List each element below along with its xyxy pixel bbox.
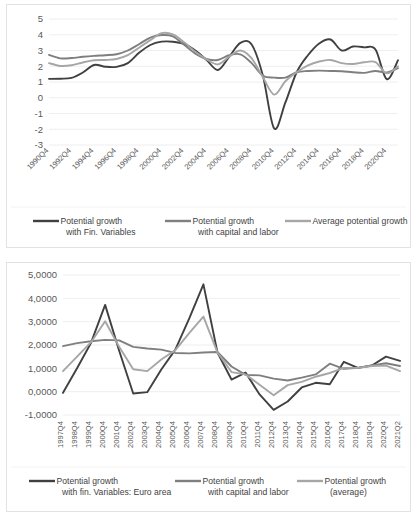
x-axis-tick-label: 2016Q4 (318, 146, 343, 171)
x-axis-tick-label: 2010Q4 (250, 146, 275, 171)
x-axis-tick-label: 2008Q4 (228, 146, 253, 171)
x-axis-tick-label: 2007Q4 (196, 421, 205, 448)
legend-label: Potential growth (325, 476, 387, 486)
x-axis-tick-label: 2004Q4 (154, 421, 163, 448)
legend-label: Potential growth (203, 476, 265, 486)
x-axis-tick-label: 1998Q4 (115, 146, 140, 171)
legend-label: Potential growth (57, 476, 119, 486)
x-axis-tick-label: 1998Q4 (70, 421, 79, 448)
y-axis-tick-label: 1 (38, 76, 43, 87)
x-axis-tick-label: 2004Q4 (183, 146, 208, 171)
x-axis-tick-label: 2011Q4 (253, 421, 262, 447)
legend-label: Average potential growth (313, 216, 408, 226)
x-axis-tick-label: 2008Q4 (210, 421, 219, 448)
x-axis-tick-label: 2003Q4 (140, 421, 149, 448)
x-axis-tick-label: 2012Q4 (267, 421, 276, 448)
series-line (63, 284, 400, 410)
y-axis-tick-label: 0,0000 (28, 386, 57, 397)
y-axis-tick-label: 3 (38, 45, 43, 56)
y-axis-tick-label: -1 (35, 108, 43, 119)
x-axis-tick-label: 2000Q4 (98, 421, 107, 448)
x-axis-tick-label: 2019Q4 (365, 421, 374, 448)
x-axis-tick-label: 2016Q4 (323, 421, 332, 448)
x-axis-tick-label: 1994Q4 (70, 146, 95, 171)
legend-label: Potential growth (61, 216, 123, 226)
legend-label-line2: with capital and labor (197, 227, 279, 237)
y-axis-tick-label: 5 (38, 13, 43, 24)
x-axis-tick-label: 2006Q4 (205, 146, 230, 171)
legend-label-line2: with Fin. Variables (65, 227, 136, 237)
chart-bottom-canvas: 5,00004,00003,00002,00001,00000,0000-1,0… (7, 263, 410, 511)
x-axis-tick-label: 2014Q4 (295, 421, 304, 448)
x-axis-tick-label: 2017Q4 (337, 421, 346, 448)
series-line (49, 35, 398, 78)
y-axis-tick-label: 1,0000 (28, 363, 57, 374)
series-line (63, 317, 400, 396)
x-axis-tick-label: 2002Q4 (160, 146, 185, 171)
figure-page: 543210-1-2-31990Q41992Q41994Q41996Q41998… (0, 0, 417, 516)
x-axis-tick-label: 2020Q4 (363, 146, 388, 171)
y-axis-tick-label: 2 (38, 61, 43, 72)
x-axis-tick-label: 2010Q4 (239, 421, 248, 448)
series-line (63, 340, 400, 381)
legend-label: Potential growth (193, 216, 255, 226)
y-axis-tick-label: -1,0000 (25, 409, 57, 420)
x-axis-tick-label: 2001Q4 (112, 421, 121, 448)
x-axis-tick-label: 1999Q4 (84, 421, 93, 448)
y-axis-tick-label: 5,0000 (28, 269, 57, 280)
legend-label-line2: with capital and labor (207, 487, 289, 497)
x-axis-tick-label: 2018Q4 (351, 421, 360, 448)
x-axis-tick-label: 2012Q4 (273, 146, 298, 171)
legend-label-line2: (average) (330, 487, 367, 497)
y-axis-tick-label: 0 (38, 92, 43, 103)
x-axis-tick-label: 2021Q2 (393, 421, 402, 448)
x-axis-tick-label: 2009Q4 (225, 421, 234, 448)
y-axis-tick-label: -2 (35, 124, 43, 135)
x-axis-tick-label: 2006Q4 (182, 421, 191, 448)
y-axis-tick-label: 4,0000 (28, 293, 57, 304)
y-axis-tick-label: 2,0000 (28, 339, 57, 350)
y-axis-tick-label: 3,0000 (28, 316, 57, 327)
x-axis-tick-label: 2000Q4 (138, 146, 163, 171)
x-axis-tick-label: 2014Q4 (295, 146, 320, 171)
x-axis-tick-label: 2002Q4 (126, 421, 135, 448)
x-axis-tick-label: 1996Q4 (92, 146, 117, 171)
y-axis-tick-label: 4 (38, 29, 43, 40)
x-axis-tick-label: 2005Q4 (168, 421, 177, 448)
x-axis-tick-label: 1992Q4 (47, 146, 72, 171)
chart-bottom-potential-growth-euro-area: 5,00004,00003,00002,00001,00000,0000-1,0… (6, 262, 411, 512)
chart-top-potential-growth: 543210-1-2-31990Q41992Q41994Q41996Q41998… (6, 4, 411, 248)
x-axis-tick-label: 2015Q4 (309, 421, 318, 448)
series-line (49, 39, 398, 129)
x-axis-tick-label: 2018Q4 (340, 146, 365, 171)
x-axis-tick-label: 2020Q4 (379, 421, 388, 448)
x-axis-tick-label: 1997Q4 (56, 421, 65, 448)
legend-label-line2: with fin. Variables: Euro area (61, 487, 171, 497)
x-axis-tick-label: 2013Q4 (281, 421, 290, 448)
chart-top-canvas: 543210-1-2-31990Q41992Q41994Q41996Q41998… (7, 5, 410, 247)
